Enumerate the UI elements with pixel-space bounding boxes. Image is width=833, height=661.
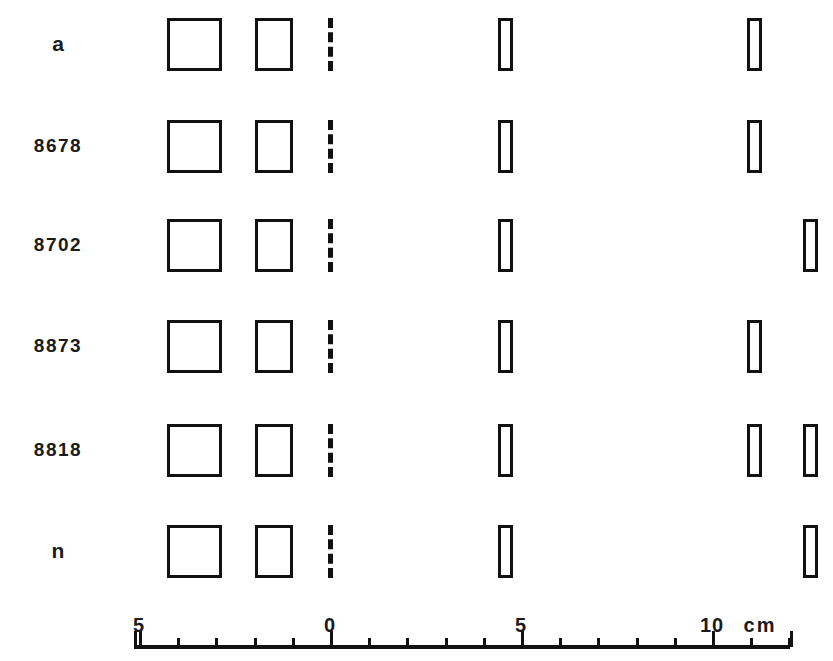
axis-tick-minor <box>292 638 295 647</box>
figure-canvas: a8678870288738818n50510cm <box>0 0 833 661</box>
shape-square-row-n-0 <box>167 525 222 578</box>
shape-rect-row-n-1 <box>255 525 293 578</box>
shape-bar-row-8873-4 <box>747 320 762 373</box>
row-label-n: n <box>52 539 65 563</box>
shape-bar-row-8818-5 <box>803 424 818 477</box>
datum-dashed-line <box>328 219 333 272</box>
shape-bar-row-a-3 <box>498 18 513 71</box>
axis-tick-minor <box>483 638 486 647</box>
scale-bar-axis-line <box>134 645 790 649</box>
shape-rect-row-a-1 <box>255 18 293 71</box>
shape-bar-row-8702-4 <box>803 219 818 272</box>
shape-bar-row-n-4 <box>803 525 818 578</box>
datum-dashed-line <box>328 525 333 578</box>
row-label-8873: 8873 <box>34 335 82 357</box>
shape-square-row-8678-0 <box>167 120 222 173</box>
axis-end-cap-right <box>790 631 793 647</box>
row-label-8678: 8678 <box>34 135 82 157</box>
axis-tick-minor <box>406 638 409 647</box>
shape-rect-row-8818-1 <box>255 424 293 477</box>
shape-square-row-8873-0 <box>167 320 222 373</box>
axis-tick-minor <box>674 638 677 647</box>
shape-bar-row-8818-4 <box>747 424 762 477</box>
axis-tick-minor <box>636 638 639 647</box>
axis-tick-label-1: 0 <box>324 614 336 637</box>
shape-bar-row-8873-3 <box>498 320 513 373</box>
datum-dashed-line <box>328 120 333 173</box>
shape-square-row-a-0 <box>167 18 222 71</box>
axis-tick-minor <box>597 638 600 647</box>
axis-units-label: cm <box>744 614 777 637</box>
shape-square-row-8702-0 <box>167 219 222 272</box>
axis-tick-minor <box>368 638 371 647</box>
axis-tick-label-0: 5 <box>133 614 145 637</box>
shape-bar-row-8678-3 <box>498 120 513 173</box>
shape-rect-row-8678-1 <box>255 120 293 173</box>
axis-tick-label-2: 5 <box>515 614 527 637</box>
axis-tick-minor <box>750 638 753 647</box>
shape-bar-row-8678-4 <box>747 120 762 173</box>
shape-bar-row-8818-3 <box>498 424 513 477</box>
row-label-a: a <box>52 32 64 56</box>
axis-tick-label-3: 10 <box>700 614 724 637</box>
shape-bar-row-a-4 <box>747 18 762 71</box>
shape-square-row-8818-0 <box>167 424 222 477</box>
axis-tick-minor <box>254 638 257 647</box>
datum-dashed-line <box>328 18 333 71</box>
axis-tick-minor <box>559 638 562 647</box>
datum-dashed-line <box>328 424 333 477</box>
datum-dashed-line <box>328 320 333 373</box>
axis-tick-minor <box>215 638 218 647</box>
axis-tick-minor <box>445 638 448 647</box>
row-label-8702: 8702 <box>34 234 82 256</box>
shape-rect-row-8873-1 <box>255 320 293 373</box>
axis-tick-minor <box>177 638 180 647</box>
shape-bar-row-8702-3 <box>498 219 513 272</box>
row-label-8818: 8818 <box>34 439 82 461</box>
shape-rect-row-8702-1 <box>255 219 293 272</box>
shape-bar-row-n-3 <box>498 525 513 578</box>
